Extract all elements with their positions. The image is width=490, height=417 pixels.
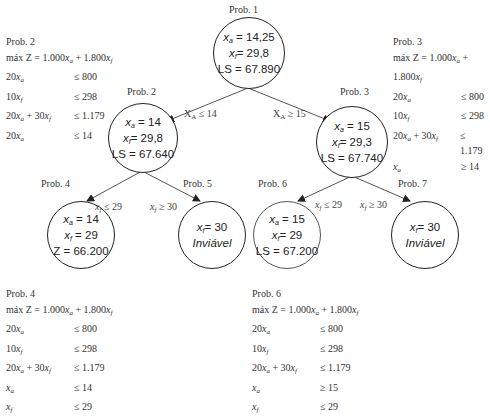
edge-label-p1-p3: XA ≥ 15 xyxy=(273,108,306,121)
model-prob3: Prob. 3 máx Z = 1.000xa + 1.800xf 20xa≤ … xyxy=(393,34,490,178)
label-prob2: Prob. 2 xyxy=(127,86,156,97)
label-prob7: Prob. 7 xyxy=(398,178,427,189)
node-prob6: xa = 15 xf= 29 LS = 67.200 xyxy=(253,201,321,269)
node-prob7: xf= 30 Inviável xyxy=(391,201,459,269)
edge-p3-p6 xyxy=(298,176,352,201)
edge-p2-p4 xyxy=(87,171,142,201)
edge-label-p3-p6: xf ≤ 29 xyxy=(315,199,342,212)
label-prob4: Prob. 4 xyxy=(41,178,70,189)
node-prob1: xa = 14,25 xf= 29,8 LS = 67.890 xyxy=(213,17,285,89)
model-prob6: Prob. 6 máx Z = 1.000xa + 1.800xf 20xa≤ … xyxy=(252,286,358,417)
label-prob3: Prob. 3 xyxy=(340,86,369,97)
edge-label-p2-p5: xf ≥ 30 xyxy=(150,201,177,214)
node-prob3: xa = 15 xf= 29,3 LS = 67.740 xyxy=(316,106,388,178)
edge-label-p3-p7: xf ≥ 30 xyxy=(360,199,387,212)
edge-label-p2-p4: xf ≤ 29 xyxy=(95,201,122,214)
model-prob2: Prob. 2 máx Z = 1.000xa + 1.800xf 20xa≤ … xyxy=(6,34,112,147)
edge-label-p1-p2: XA ≤ 14 xyxy=(184,108,217,121)
model-prob4: Prob. 4 máx Z = 1.000xa + 1.800xf 20xa≤ … xyxy=(6,286,112,417)
label-prob5: Prob. 5 xyxy=(183,178,212,189)
label-prob1: Prob. 1 xyxy=(229,4,258,15)
node-prob2: xa = 14 xf= 29,8 LS = 67.640 xyxy=(108,103,178,173)
label-prob6: Prob. 6 xyxy=(258,178,287,189)
node-prob5: xf= 30 Inviável xyxy=(178,201,246,269)
